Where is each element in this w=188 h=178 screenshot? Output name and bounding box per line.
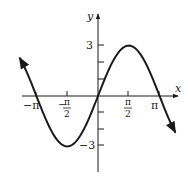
x-tick-label-half-pi: π 2 (124, 97, 132, 119)
svg-text:2: 2 (64, 109, 70, 119)
svg-text:π: π (125, 97, 131, 107)
x-tick-label-neg-pi: −π (23, 99, 39, 112)
sine-graph: y x 3 −3 −π − π 2 π 2 π (0, 0, 188, 178)
svg-text:π: π (64, 97, 70, 107)
y-axis-label: y (86, 10, 94, 23)
x-axis-label: x (175, 82, 182, 95)
y-tick-label-3: 3 (86, 39, 93, 52)
x-tick-label-pi: π (151, 99, 158, 112)
x-tick-label-neg-half-pi: − π 2 (58, 97, 71, 119)
y-tick-label-neg3: −3 (79, 139, 95, 152)
svg-text:2: 2 (125, 109, 131, 119)
